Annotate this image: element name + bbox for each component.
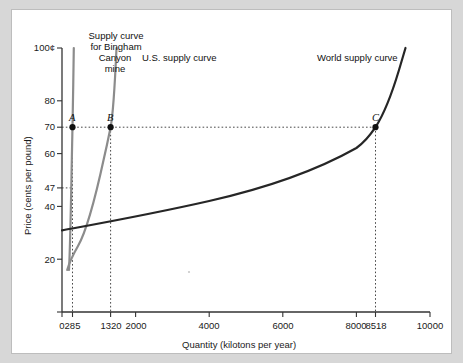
x-axis-ticks bbox=[62, 312, 430, 317]
series-us-supply-curve bbox=[67, 48, 116, 270]
x-axis-title: Quantity (kilotons per year) bbox=[182, 340, 296, 350]
figure-frame: 100¢ 80 70 60 47 40 20 0 285 1320 2000 4… bbox=[11, 9, 452, 354]
series-bingham-supply-curve bbox=[69, 48, 74, 270]
point-c-marker bbox=[372, 124, 378, 130]
xtick-6000: 6000 bbox=[268, 321, 298, 331]
stray-speck bbox=[188, 271, 190, 273]
guide-lines bbox=[62, 127, 376, 312]
bingham-curve-label-line1: Supply curve bbox=[78, 31, 154, 41]
ytick-20: 20 bbox=[25, 255, 55, 265]
ytick-100: 100¢ bbox=[25, 43, 55, 53]
bingham-curve-label-line4: mine bbox=[84, 64, 146, 74]
xtick-4000: 4000 bbox=[194, 321, 224, 331]
y-axis-title: Price (cents per pound) bbox=[23, 136, 33, 235]
bingham-curve-label-line2: for Bingham bbox=[78, 42, 154, 52]
point-b-marker bbox=[108, 124, 114, 130]
ytick-80: 80 bbox=[25, 96, 55, 106]
us-curve-label: U.S. supply curve bbox=[142, 53, 242, 63]
world-curve-label: World supply curve bbox=[317, 53, 427, 63]
xtick-2000: 2000 bbox=[121, 321, 151, 331]
bingham-curve-label-line3: Canyon bbox=[84, 53, 146, 63]
xtick-10000: 10000 bbox=[412, 321, 448, 331]
chart-plot-area: 100¢ 80 70 60 47 40 20 0 285 1320 2000 4… bbox=[12, 10, 453, 355]
ytick-70: 70 bbox=[25, 122, 55, 132]
xtick-285: 285 bbox=[60, 321, 85, 331]
point-b-label: B bbox=[107, 113, 113, 124]
point-a-marker bbox=[69, 124, 75, 130]
xtick-8518: 8518 bbox=[361, 321, 391, 331]
point-a-label: A bbox=[69, 113, 75, 124]
point-c-label: C bbox=[372, 113, 379, 124]
y-axis-ticks bbox=[57, 48, 62, 312]
series-world-supply-curve bbox=[62, 48, 406, 230]
